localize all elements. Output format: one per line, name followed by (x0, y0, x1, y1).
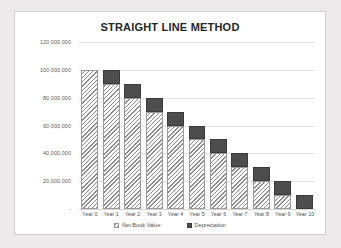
bar-column[interactable] (146, 42, 163, 209)
legend-label: Net Book Value (122, 222, 160, 228)
y-axis-tick-label: - (69, 206, 71, 212)
x-axis-tick-label: Year 9 (274, 211, 291, 221)
bar-segment-net-book-value[interactable] (189, 139, 206, 209)
x-axis-tick-label: Year 0 (81, 211, 98, 221)
chart-legend: Net Book ValueDepreciation (15, 222, 325, 228)
y-axis-tick-label: 40,000,000 (43, 150, 71, 156)
y-axis-tick-label: 120,000,000 (40, 39, 71, 45)
x-axis-tick-label: Year 7 (231, 211, 248, 221)
bar-segment-net-book-value[interactable] (146, 112, 163, 209)
bar-column[interactable] (124, 42, 141, 209)
legend-item[interactable]: Depreciation (187, 222, 226, 228)
bar-segment-net-book-value[interactable] (253, 181, 270, 209)
bar-segment-depreciation[interactable] (253, 167, 270, 181)
x-axis-tick-label: Year 2 (124, 211, 141, 221)
hatched-square-icon (114, 223, 119, 228)
bar-column[interactable] (103, 42, 120, 209)
bar-column[interactable] (210, 42, 227, 209)
bar-segment-depreciation[interactable] (103, 70, 120, 84)
bar-segment-net-book-value[interactable] (103, 84, 120, 209)
bar-segment-net-book-value[interactable] (167, 126, 184, 210)
bar-series-group (79, 42, 315, 209)
x-axis-tick-label: Year 4 (167, 211, 184, 221)
y-axis: -20,000,00040,000,00060,000,00080,000,00… (15, 42, 75, 209)
bar-segment-depreciation[interactable] (189, 126, 206, 140)
filled-square-icon (187, 223, 192, 228)
chart-title: STRAIGHT LINE METHOD (15, 21, 325, 33)
y-axis-tick-label: 20,000,000 (43, 178, 71, 184)
y-axis-tick-label: 100,000,000 (40, 67, 71, 73)
bar-segment-net-book-value[interactable] (124, 98, 141, 209)
bar-segment-net-book-value[interactable] (81, 70, 98, 209)
bar-segment-net-book-value[interactable] (274, 195, 291, 209)
bar-column[interactable] (274, 42, 291, 209)
legend-label: Depreciation (195, 222, 226, 228)
bar-segment-net-book-value[interactable] (231, 167, 248, 209)
bar-column[interactable] (253, 42, 270, 209)
x-axis-tick-label: Year 6 (210, 211, 227, 221)
x-axis-tick-label: Year 5 (189, 211, 206, 221)
x-axis-tick-label: Year 8 (253, 211, 270, 221)
x-axis: Year 0Year 1Year 2Year 3Year 4Year 5Year… (79, 211, 315, 221)
legend-item[interactable]: Net Book Value (114, 222, 160, 228)
bar-segment-depreciation[interactable] (296, 195, 313, 209)
x-axis-tick-label: Year 10 (296, 211, 313, 221)
chart-container: STRAIGHT LINE METHOD -20,000,00040,000,0… (14, 11, 326, 235)
y-axis-tick-label: 60,000,000 (43, 123, 71, 129)
bar-segment-depreciation[interactable] (167, 112, 184, 126)
gridline (79, 209, 315, 210)
bar-column[interactable] (167, 42, 184, 209)
bar-segment-depreciation[interactable] (231, 153, 248, 167)
bar-segment-depreciation[interactable] (124, 84, 141, 98)
bar-segment-depreciation[interactable] (274, 181, 291, 195)
plot-area (79, 42, 315, 209)
bar-segment-depreciation[interactable] (210, 139, 227, 153)
x-axis-tick-label: Year 3 (146, 211, 163, 221)
bar-segment-depreciation[interactable] (146, 98, 163, 112)
bar-column[interactable] (189, 42, 206, 209)
x-axis-tick-label: Year 1 (103, 211, 120, 221)
bar-column[interactable] (296, 42, 313, 209)
bar-column[interactable] (231, 42, 248, 209)
bar-segment-net-book-value[interactable] (210, 153, 227, 209)
bar-column[interactable] (81, 42, 98, 209)
y-axis-tick-label: 80,000,000 (43, 95, 71, 101)
